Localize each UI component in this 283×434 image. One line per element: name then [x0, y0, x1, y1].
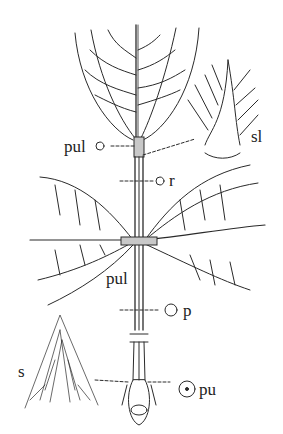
- stipel-detail: [188, 60, 258, 158]
- terminal-leaflet: [75, 25, 199, 140]
- label-petiole: p: [183, 302, 192, 319]
- label-pulvinule-top: pul: [64, 138, 86, 155]
- label-pulvinule-mid: pul: [106, 270, 128, 287]
- label-rachis: r: [169, 172, 175, 189]
- leaf-drawing: [0, 0, 283, 434]
- stipule-detail: [25, 315, 98, 408]
- petiole-cross-section: [165, 304, 177, 316]
- pulvinule-mid: [121, 237, 157, 245]
- leaf-diagram: pul r sl pul p s pu: [0, 0, 283, 434]
- label-pulvinus: pu: [199, 381, 216, 398]
- label-stipel: sl: [251, 128, 262, 145]
- rachis-cross-section: [156, 177, 164, 185]
- pulvinule-cross-section: [96, 142, 104, 150]
- pulvinule-top: [134, 137, 144, 157]
- petiole: [122, 334, 156, 425]
- label-stipule: s: [18, 363, 25, 380]
